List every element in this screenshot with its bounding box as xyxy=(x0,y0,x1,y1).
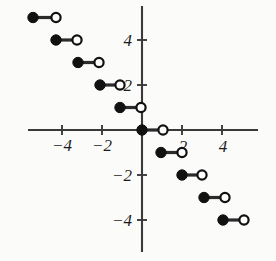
closed-endpoint-dot xyxy=(95,80,105,90)
y-tick-label-neg2: −2 xyxy=(112,166,132,185)
closed-endpoint-dot xyxy=(115,102,125,112)
closed-endpoint-dot xyxy=(51,35,61,45)
open-endpoint-dot xyxy=(177,148,186,157)
open-endpoint-dot xyxy=(115,80,124,89)
x-tick-labels: −4 −2 2 4 xyxy=(52,136,228,156)
open-endpoint-dot xyxy=(72,35,81,44)
closed-endpoint-dot xyxy=(199,192,209,202)
open-endpoint-dot xyxy=(197,170,206,179)
x-tick-label-neg2: −2 xyxy=(92,136,112,155)
y-tick-label-pos4: 4 xyxy=(124,31,133,50)
step-function-plot: −4 −2 2 4 4 2 −2 −4 xyxy=(0,0,276,261)
open-endpoint-dot xyxy=(220,193,229,202)
step-segments-group xyxy=(28,12,249,225)
open-endpoint-dot xyxy=(51,13,60,22)
closed-endpoint-dot xyxy=(73,57,83,67)
open-endpoint-dot xyxy=(239,215,248,224)
closed-endpoint-dot xyxy=(156,147,166,157)
open-endpoint-dot xyxy=(94,58,103,67)
closed-endpoint-dot xyxy=(28,12,38,22)
closed-endpoint-dot xyxy=(137,125,147,135)
open-endpoint-dot xyxy=(158,125,167,134)
closed-endpoint-dot xyxy=(218,215,228,225)
x-tick-label-pos4: 4 xyxy=(219,137,228,156)
x-tick-label-neg4: −4 xyxy=(52,136,72,155)
y-tick-label-neg4: −4 xyxy=(112,211,132,230)
step-function-figure: −4 −2 2 4 4 2 −2 −4 xyxy=(0,0,276,261)
closed-endpoint-dot xyxy=(177,170,187,180)
open-endpoint-dot xyxy=(136,103,145,112)
